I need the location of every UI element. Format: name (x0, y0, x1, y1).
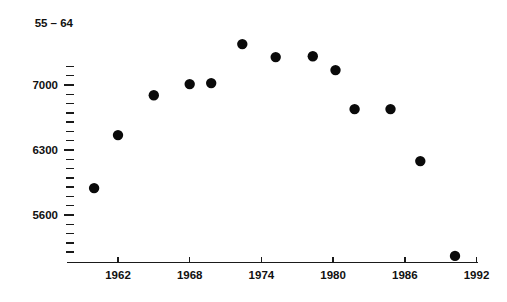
data-point (185, 79, 195, 89)
axis-labels-group: 70006300560055 – 64196219681974198019861… (32, 17, 489, 281)
data-point (271, 52, 281, 62)
x-axis-tick-label: 1968 (177, 269, 203, 281)
y-axis-tick-label: 6300 (32, 144, 58, 156)
x-axis-group (67, 257, 478, 263)
data-point (349, 104, 359, 114)
data-point (450, 251, 460, 261)
x-axis-tick-label: 1980 (320, 269, 346, 281)
data-point (113, 130, 123, 140)
chart-canvas: 70006300560055 – 64196219681974198019861… (0, 0, 507, 302)
data-point (237, 39, 247, 49)
y-axis-tick-label: 5600 (32, 209, 58, 221)
data-point (330, 65, 340, 75)
x-axis-tick-label: 1986 (392, 269, 418, 281)
data-points-group (89, 39, 460, 261)
x-axis-tick-label: 1974 (249, 269, 275, 281)
data-point (206, 78, 216, 88)
x-axis-ticks (118, 257, 477, 263)
x-axis-tick-label: 1992 (464, 269, 490, 281)
data-point (149, 90, 159, 100)
data-point (89, 183, 99, 193)
y-axis-tick-label: 7000 (32, 79, 58, 91)
chart-title: 55 – 64 (35, 17, 74, 29)
y-axis-ticks (64, 66, 74, 252)
data-point (385, 104, 395, 114)
x-axis-tick-label: 1962 (105, 269, 131, 281)
data-point (415, 156, 425, 166)
scatter-chart: 70006300560055 – 64196219681974198019861… (0, 0, 507, 302)
data-point (308, 51, 318, 61)
